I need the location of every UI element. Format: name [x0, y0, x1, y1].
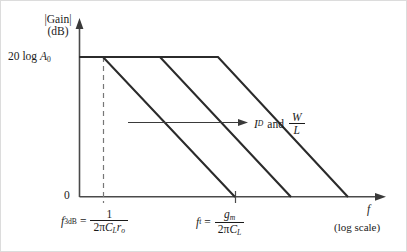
y-tick-top-prefix: 20 log — [8, 50, 40, 62]
ft-den-pi: 2π — [218, 223, 230, 235]
ft-subscript: t — [199, 218, 201, 226]
trend-symbol-i-sub: D — [258, 120, 263, 128]
x-axis-scale-note: (log scale) — [334, 222, 380, 234]
y-tick-label-top: 20 log A0 — [8, 50, 51, 64]
f3db-subscript: 3dB — [64, 218, 77, 226]
bode-plot-figure: |Gain| (dB) 20 log A0 0 f3dB = 1 2πCLro … — [0, 0, 407, 252]
y-axis-title-line1: |Gain| — [38, 13, 78, 25]
ft-den-c-sub: L — [237, 228, 241, 237]
gain-curve-1 — [79, 57, 235, 197]
x-axis-arrowhead — [375, 193, 386, 201]
f3db-denominator: 2πCLro — [90, 221, 128, 235]
f3db-fraction: 1 2πCLro — [90, 208, 128, 235]
y-axis-title: |Gain| (dB) — [38, 13, 78, 37]
trend-frac-den: L — [289, 124, 305, 136]
trend-frac-num: W — [289, 111, 305, 124]
f3db-tick-label: f3dB = 1 2πCLro — [61, 208, 129, 235]
f3db-den-pi: 2π — [93, 221, 105, 233]
trend-annotation-label: ID and W L — [254, 111, 306, 136]
x-axis-symbol: f — [367, 203, 370, 215]
ft-fraction: gm 2πCL — [215, 208, 244, 237]
f3db-den-r-sub: o — [121, 226, 125, 235]
f3db-equals: = — [80, 215, 87, 227]
f3db-den-c: C — [105, 221, 113, 233]
y-tick-top-symbol: A — [40, 50, 47, 62]
y-tick-top-subscript: 0 — [47, 55, 51, 64]
trend-conjunction: and — [267, 118, 284, 130]
ft-numerator: gm — [215, 208, 244, 223]
y-axis-title-line2: (dB) — [38, 25, 78, 37]
ft-denominator: 2πCL — [215, 223, 244, 237]
ft-tick-label: ft = gm 2πCL — [196, 208, 245, 237]
ft-den-c: C — [229, 223, 237, 235]
f3db-numerator: 1 — [90, 208, 128, 221]
ft-num-g-sub: m — [230, 213, 235, 222]
trend-arrow-head — [238, 119, 248, 126]
ft-equals: = — [204, 216, 211, 228]
y-tick-label-bottom: 0 — [64, 189, 70, 201]
trend-fraction-wl: W L — [289, 111, 305, 136]
